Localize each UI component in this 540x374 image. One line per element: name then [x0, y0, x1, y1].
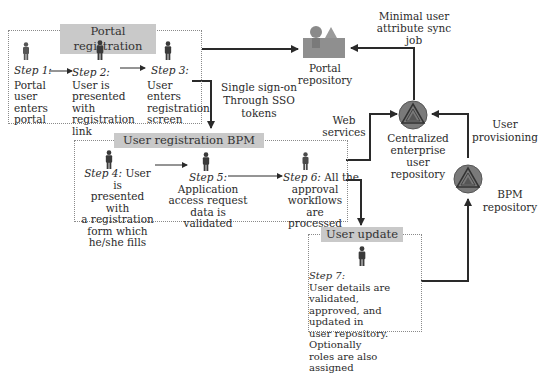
step-label: Step 1: [14, 65, 59, 77]
person-icon [22, 42, 30, 60]
label-line: Minimal user [364, 10, 464, 22]
step-7: Step 7: User details are validated, appr… [309, 270, 424, 374]
label-line: repository [480, 201, 540, 214]
step-text: data is validated [168, 207, 248, 230]
step-text: presented with [80, 191, 155, 214]
step-heading: Step 4: User is [80, 168, 155, 191]
arrow-sync-job [351, 48, 414, 100]
portal-repository-label: Portal repository [295, 62, 355, 86]
bpm-repository-label: BPM repository [480, 188, 540, 214]
bpm-repository-icon [453, 164, 483, 194]
step-heading: Step 6: All the [283, 172, 347, 184]
step-text: presented with [72, 91, 152, 114]
step-text: he/she fills [80, 237, 155, 249]
enterprise-repository-icon [398, 100, 428, 130]
step-label: Step 7: [309, 270, 424, 282]
label-line: Portal [295, 62, 355, 74]
portal-registration-title: Portal registration [60, 24, 156, 54]
step-text: access request [168, 195, 248, 207]
step-4: Step 4: User is presented with a registr… [80, 168, 155, 249]
step-text: enters [147, 91, 207, 103]
step-text: roles are also assigned [309, 351, 424, 374]
step-text: user [14, 91, 59, 103]
step-text: user repository. Optionally [309, 328, 424, 351]
sso-line: Single sign-on [214, 81, 304, 94]
person-icon [201, 152, 211, 171]
person-icon [301, 152, 310, 170]
person-icon [95, 40, 105, 60]
sso-line: tokens [214, 107, 304, 120]
step-1: Step 1: Portal user enters portal [14, 65, 59, 126]
step-label: Step 2: [72, 67, 152, 79]
web-services-label: Web services [318, 114, 370, 138]
sso-line: Through SSO [214, 94, 304, 107]
label-line: BPM [480, 188, 540, 201]
label-line: repository [378, 168, 458, 180]
label-line: Centralized [378, 132, 458, 144]
sso-label: Single sign-on Through SSO tokens [214, 81, 304, 120]
sync-job-label: Minimal user attribute sync job [364, 10, 464, 46]
step-text: registration [72, 114, 152, 126]
label-line: services [318, 126, 370, 138]
label-line: Web [318, 114, 370, 126]
label-line: provisioning [470, 131, 540, 144]
enterprise-repository-label: Centralized enterprise user repository [378, 132, 458, 180]
step-6: Step 6: All the approval workflows are p… [283, 172, 347, 230]
person-icon [163, 41, 173, 60]
portal-repository-icon [303, 24, 345, 58]
step-2: Step 2: User is presented with registrat… [72, 67, 152, 137]
step-text: screen [147, 114, 207, 126]
step-text: portal [14, 114, 59, 126]
person-icon [357, 246, 367, 266]
arrow-to-bpm-repo [421, 199, 468, 281]
step-3: Step 3: User enters registration screen [147, 65, 207, 126]
step-text: All the [321, 171, 359, 183]
step-text: workflows are [283, 195, 347, 218]
step-label: Step 4: [84, 167, 122, 179]
step-label: Step 6: [283, 171, 321, 183]
label-line: job [364, 34, 464, 46]
step-label: Step 3: [147, 65, 207, 77]
label-line: User [470, 118, 540, 131]
arrow-to-user-update [346, 180, 361, 225]
step-text: a registration [80, 214, 155, 226]
step-text: approved, and updated in [309, 305, 424, 328]
step-text: User details are validated, [309, 282, 424, 305]
label-line: repository [295, 74, 355, 86]
label-line: attribute sync [364, 22, 464, 34]
label-line: enterprise user [378, 144, 458, 168]
user-update-title: User update [321, 227, 403, 242]
step-label: Step 5: [168, 172, 248, 184]
user-registration-bpm-title: User registration BPM [114, 133, 264, 148]
step-5: Step 5: Application access request data … [168, 172, 248, 230]
user-provisioning-label: User provisioning [470, 118, 540, 144]
